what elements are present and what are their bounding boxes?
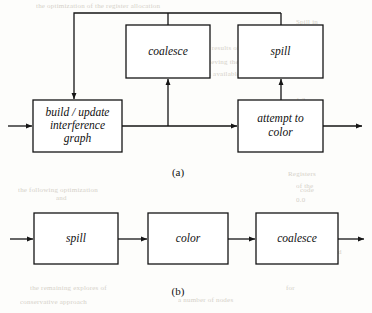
node-color-b-label: color (176, 232, 201, 244)
figure-svg: build / update interference graph coales… (0, 0, 372, 313)
node-spill-a[interactable]: spill (238, 25, 323, 78)
node-build-label-line-3: graph (64, 132, 92, 145)
node-coalesce-b[interactable]: coalesce (256, 213, 338, 264)
node-attempt-label-line-1: attempt to (257, 112, 304, 125)
node-build-update-interference-graph[interactable]: build / update interference graph (33, 100, 122, 152)
node-coalesce-b-label: coalesce (277, 232, 317, 244)
node-coalesce-a[interactable]: coalesce (126, 25, 210, 78)
node-attempt-to-color[interactable]: attempt to color (238, 100, 323, 152)
node-coalesce-a-label: coalesce (148, 45, 188, 57)
node-build-label-line-1: build / update (46, 106, 110, 119)
node-color-b[interactable]: color (148, 213, 228, 264)
node-build-label-line-2: interference (50, 119, 105, 132)
node-attempt-label-line-2: color (268, 126, 293, 138)
node-spill-b[interactable]: spill (34, 213, 118, 264)
node-spill-a-label: spill (271, 45, 291, 58)
diagram-a: build / update interference graph coales… (8, 13, 362, 179)
caption-b: (b) (172, 285, 185, 298)
caption-a: (a) (172, 166, 185, 179)
diagram-b: spill color coalesce (b) (10, 213, 364, 298)
node-spill-b-label: spill (66, 232, 86, 245)
figure-container: the optimization of the register allocat… (0, 0, 372, 313)
